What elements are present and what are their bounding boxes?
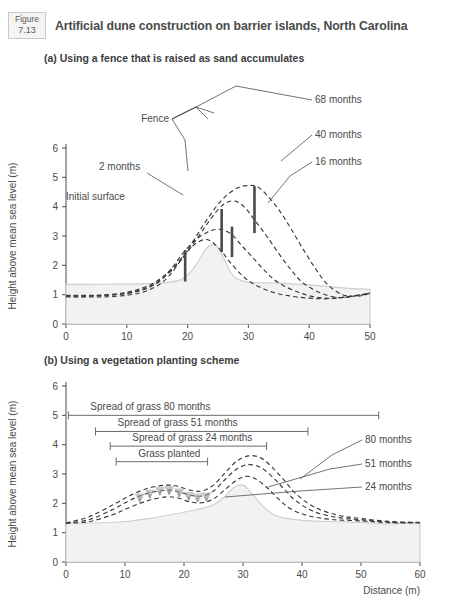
panel-b: (b) Using a vegetation planting scheme 0… [0,354,456,600]
y-tick-label: 3 [52,469,58,480]
panel-a: (a) Using a fence that is raised as sand… [0,52,456,344]
x-tick-label: 50 [355,569,367,580]
x-tick-label: 40 [304,331,316,342]
y-tick-label: 6 [52,381,58,392]
panel-a-title: (a) Using a fence that is raised as sand… [44,52,456,64]
y-tick-label: 2 [52,498,58,509]
annotation-label: 2 months [99,161,140,172]
x-tick-label: 10 [119,569,131,580]
annotation-label: 51 months [365,458,412,469]
figure-word: Figure [9,15,45,25]
initial-surface-profile [66,485,420,562]
x-tick-label: 30 [243,331,255,342]
x-tick-label: 20 [182,331,194,342]
annotation-leader [172,107,214,119]
range-bar: Grass planted [116,448,207,466]
y-tick-label: 1 [52,289,58,300]
grass-tuft [165,486,174,495]
y-tick-label: 0 [52,319,58,330]
y-tick-label: 4 [52,439,58,450]
panel-b-title: (b) Using a vegetation planting scheme [44,354,456,366]
annotation-leader [281,135,312,161]
annotation-label: 40 months [315,129,362,140]
x-tick-label: 40 [296,569,308,580]
x-tick-label: 30 [237,569,249,580]
x-tick-label: 60 [414,569,426,580]
x-tick-label: 0 [63,331,69,342]
y-tick-label: 5 [52,410,58,421]
y-tick-label: 6 [52,143,58,154]
panel-b-chart: 01234560102030405060Height above mean se… [0,366,456,600]
range-bar-label: Spread of grass 51 months [118,418,238,429]
page-title: Artificial dune construction on barrier … [55,19,407,33]
annotation-label: 24 months [365,481,412,492]
range-bar-label: Grass planted [138,448,200,459]
y-tick-label: 5 [52,172,58,183]
annotation-label: Initial surface [66,191,125,202]
annotation-leader [268,162,312,203]
annotation-label: 68 months [315,94,362,105]
y-tick-label: 2 [52,260,58,271]
panel-a-chart: 012345601020304050Height above mean sea … [0,64,456,344]
annotation-label: Fence [141,113,169,124]
y-tick-label: 1 [52,527,58,538]
grass-tuft [175,488,184,497]
annotation-label: 16 months [315,156,362,167]
y-tick-label: 3 [52,231,58,242]
initial-surface-profile [66,245,370,324]
grass-tuft [202,493,211,502]
x-axis-title: Distance (m) [363,585,420,596]
annotation-leader [300,440,362,479]
x-tick-label: 20 [178,569,190,580]
figure-number-box: Figure 7.13 [8,12,46,39]
grass-tuft [184,492,193,501]
y-tick-label: 0 [52,557,58,568]
x-tick-label: 0 [63,569,69,580]
grass-tuft [193,493,202,502]
range-bar-label: Spread of grass 80 months [90,401,210,412]
annotation-leader [236,86,312,100]
annotation-leader [172,119,188,171]
annotation-leader [147,173,183,195]
y-axis-title: Height above mean sea level (m) [7,401,18,548]
y-tick-label: 4 [52,201,58,212]
range-bar-label: Spread of grass 24 months [132,432,252,443]
x-tick-label: 50 [364,331,376,342]
figure-number: 7.13 [9,25,45,35]
grass-tuft [135,493,144,502]
annotation-label: 80 months [365,434,412,445]
y-axis-title: Height above mean sea level (m) [7,163,18,310]
figure-header: Figure 7.13 Artificial dune construction… [0,0,456,39]
x-tick-label: 10 [121,331,133,342]
